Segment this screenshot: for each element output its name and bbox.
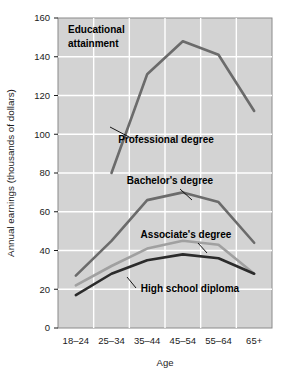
y-axis-tick-label: 120 xyxy=(34,90,50,101)
series-label: Professional degree xyxy=(118,134,214,145)
y-axis-tick-label: 0 xyxy=(45,322,50,333)
y-axis-tick-label: 100 xyxy=(34,129,50,140)
y-axis-tick-label: 160 xyxy=(34,12,50,23)
chart-note-line-2: attainment xyxy=(68,38,119,49)
x-axis-title: Age xyxy=(157,357,174,368)
chart-canvas: 020406080100120140160 18–2425–3435–4445–… xyxy=(0,0,292,376)
earnings-by-education-chart: 020406080100120140160 18–2425–3435–4445–… xyxy=(0,0,292,376)
x-axis-tick-label: 65+ xyxy=(246,335,263,346)
y-axis-title: Annual earnings (thousands of dollars) xyxy=(5,89,16,257)
y-axis-tick-label: 80 xyxy=(39,167,50,178)
chart-note-line-1: Educational xyxy=(68,24,125,35)
y-axis-tick-label: 40 xyxy=(39,245,50,256)
series-label: High school diploma xyxy=(141,283,240,294)
x-axis-tick-label: 55–64 xyxy=(205,335,231,346)
series-label: Bachelor's degree xyxy=(127,175,214,186)
y-axis-tick-label: 140 xyxy=(34,51,50,62)
x-axis-tick-label: 25–34 xyxy=(98,335,124,346)
y-axis-tick-label: 60 xyxy=(39,206,50,217)
x-axis-tick-label: 35–44 xyxy=(134,335,160,346)
x-axis-tick-label: 18–24 xyxy=(63,335,89,346)
y-axis-tick-label: 20 xyxy=(39,284,50,295)
series-label: Associate's degree xyxy=(141,229,232,240)
x-axis-tick-label: 45–54 xyxy=(170,335,196,346)
